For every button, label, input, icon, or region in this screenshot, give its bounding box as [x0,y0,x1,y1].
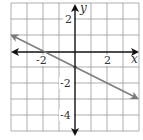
y-tick-2: 2 [65,13,72,26]
x-tick-2: 2 [104,54,111,67]
y-tick-neg4: -4 [60,109,71,122]
coordinate-plane: y x -2 2 2 -2 -4 [0,0,143,140]
y-tick-neg2: -2 [60,77,71,90]
y-axis-label: y [79,1,87,15]
x-tick-neg2: -2 [36,54,47,67]
plotted-line [12,36,43,52]
x-axis-label: x [131,52,138,66]
y-intercept-point [73,65,76,68]
